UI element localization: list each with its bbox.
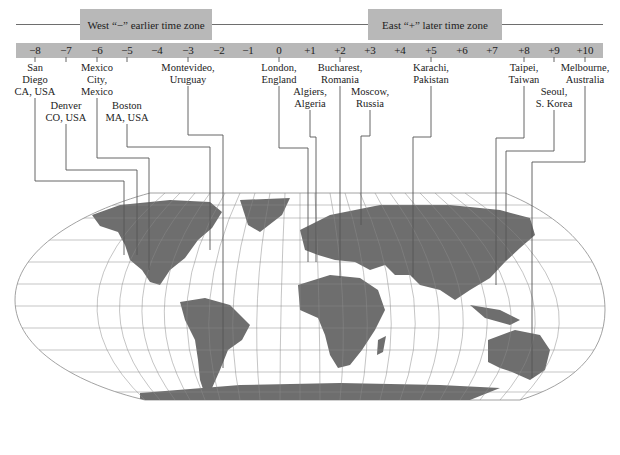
city-label-boston: Boston MA, USA [105, 100, 148, 124]
city-label-seoul: Seoul, S. Korea [536, 86, 573, 110]
city-label-taipei: Taipei, Taiwan [509, 62, 540, 86]
city-label-montevideo: Montevideo, Uruguay [161, 62, 214, 86]
city-label-moscow: Moscow, Russia [351, 86, 389, 110]
city-label-denver: Denver CO, USA [46, 100, 87, 124]
city-label-algiers: Algiers, Algeria [293, 86, 327, 110]
city-label-san-diego: San Diego CA, USA [15, 62, 56, 98]
city-label-melbourne: Melbourne, Australia [561, 62, 610, 86]
city-label-karachi: Karachi, Pakistan [413, 62, 449, 86]
city-label-bucharest: Bucharest, Romania [318, 62, 363, 86]
city-label-london: London, England [261, 62, 296, 86]
city-label-mexico-city: Mexico City, Mexico [81, 62, 113, 98]
